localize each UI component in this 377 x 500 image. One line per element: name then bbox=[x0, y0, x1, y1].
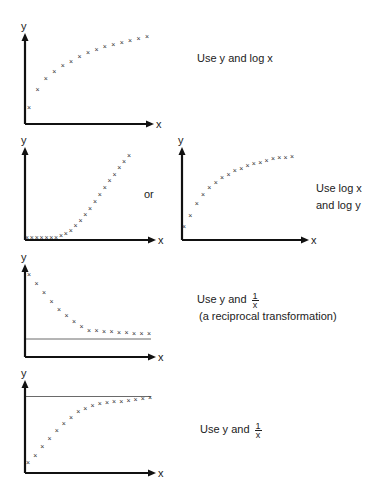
data-point-marker: × bbox=[40, 443, 44, 450]
plot-decreasing-asymptote: yx××××××××××××××××× bbox=[0, 250, 190, 370]
data-point-marker: × bbox=[27, 271, 31, 278]
data-point-marker: × bbox=[93, 198, 97, 205]
data-point-marker: × bbox=[79, 323, 83, 330]
data-point-marker: × bbox=[147, 330, 151, 337]
data-point-marker: × bbox=[98, 400, 102, 407]
data-point-marker: × bbox=[94, 46, 98, 53]
x-axis-arrow-icon bbox=[148, 354, 156, 361]
data-point-marker: × bbox=[220, 174, 224, 181]
data-point-marker: × bbox=[78, 53, 82, 60]
data-point-marker: × bbox=[124, 329, 128, 336]
x-axis-label: x bbox=[156, 118, 162, 130]
data-point-marker: × bbox=[30, 234, 34, 241]
data-point-marker: × bbox=[49, 298, 53, 305]
data-point-marker: × bbox=[86, 49, 90, 56]
x-axis-label: x bbox=[311, 234, 317, 246]
data-point-marker: × bbox=[98, 191, 102, 198]
data-point-marker: × bbox=[182, 223, 186, 230]
data-point-marker: × bbox=[271, 155, 275, 162]
data-point-marker: × bbox=[226, 171, 230, 178]
x-axis-label: x bbox=[158, 234, 164, 246]
data-point-marker: × bbox=[52, 68, 56, 75]
data-point-marker: × bbox=[145, 33, 149, 40]
data-point-marker: × bbox=[105, 399, 109, 406]
data-point-marker: × bbox=[127, 152, 131, 159]
data-point-marker: × bbox=[59, 232, 63, 239]
data-point-marker: × bbox=[120, 39, 124, 46]
data-point-marker: × bbox=[88, 205, 92, 212]
recommendation-y-log-x: Use y and log x bbox=[197, 52, 273, 65]
data-point-marker: × bbox=[265, 157, 269, 164]
data-point-marker: × bbox=[69, 227, 73, 234]
data-point-marker: × bbox=[44, 75, 48, 82]
recommendation-prefix: Use y and bbox=[200, 423, 253, 435]
data-point-marker: × bbox=[233, 167, 237, 174]
x-axis-arrow-icon bbox=[148, 470, 156, 477]
data-point-marker: × bbox=[128, 37, 132, 44]
data-point-marker: × bbox=[258, 159, 262, 166]
data-point-marker: × bbox=[148, 394, 152, 401]
data-point-marker: × bbox=[91, 402, 95, 409]
data-point-marker: × bbox=[64, 312, 68, 319]
data-point-marker: × bbox=[207, 184, 211, 191]
data-point-marker: × bbox=[108, 177, 112, 184]
data-point-marker: × bbox=[134, 396, 138, 403]
recommendation-prefix: Use y and bbox=[197, 293, 250, 305]
data-point-marker: × bbox=[117, 164, 121, 171]
data-point-marker: × bbox=[74, 222, 78, 229]
data-point-marker: × bbox=[49, 234, 53, 241]
data-point-marker: × bbox=[25, 234, 29, 241]
x-axis-arrow-icon bbox=[146, 121, 154, 128]
data-point-marker: × bbox=[195, 200, 199, 207]
data-point-marker: × bbox=[83, 405, 87, 412]
data-point-marker: × bbox=[111, 41, 115, 48]
data-point-marker: × bbox=[201, 191, 205, 198]
x-axis-label: x bbox=[158, 467, 164, 479]
plot-concave-increasing: yx××××××××××××××× bbox=[0, 0, 190, 130]
data-point-marker: × bbox=[117, 329, 121, 336]
data-point-marker: × bbox=[76, 408, 80, 415]
x-axis-arrow-icon bbox=[301, 237, 309, 244]
data-point-marker: × bbox=[54, 234, 58, 241]
data-point-marker: × bbox=[252, 160, 256, 167]
data-point-marker: × bbox=[141, 395, 145, 402]
data-point-marker: × bbox=[62, 420, 66, 427]
reciprocal-note: (a reciprocal transformation) bbox=[199, 310, 337, 323]
data-point-marker: × bbox=[132, 330, 136, 337]
data-point-marker: × bbox=[214, 179, 218, 186]
data-point-marker: × bbox=[284, 154, 288, 161]
fraction-one-over-x: 1x bbox=[252, 292, 259, 309]
data-point-marker: × bbox=[55, 427, 59, 434]
data-point-marker: × bbox=[64, 230, 68, 237]
y-axis-label: y bbox=[21, 134, 27, 146]
data-point-marker: × bbox=[139, 330, 143, 337]
data-point-marker: × bbox=[44, 234, 48, 241]
data-point-marker: × bbox=[61, 62, 65, 69]
data-point-marker: × bbox=[42, 289, 46, 296]
or-label: or bbox=[144, 188, 154, 201]
data-point-marker: × bbox=[83, 211, 87, 218]
data-point-marker: × bbox=[112, 171, 116, 178]
plot-increasing-asymptote: yx×××××××××××××××××× bbox=[0, 370, 190, 500]
data-point-marker: × bbox=[277, 154, 281, 161]
data-point-marker: × bbox=[35, 86, 39, 93]
y-axis-label: y bbox=[21, 367, 27, 379]
recommendation-y-reciprocal-x: Use y and 1x bbox=[200, 422, 262, 439]
data-point-marker: × bbox=[78, 217, 82, 224]
recommendation-log-x-log-y: Use log x and log y bbox=[316, 180, 362, 214]
data-point-marker: × bbox=[188, 212, 192, 219]
fraction-one-over-x: 1x bbox=[255, 422, 262, 439]
y-axis-arrow-icon bbox=[179, 147, 186, 155]
data-point-marker: × bbox=[40, 234, 44, 241]
y-axis-label: y bbox=[178, 134, 184, 146]
data-point-marker: × bbox=[109, 328, 113, 335]
data-point-marker: × bbox=[69, 58, 73, 65]
plot-concave-increasing-steep: yx×××××××××××××××××× bbox=[168, 130, 328, 250]
data-point-marker: × bbox=[119, 398, 123, 405]
data-point-marker: × bbox=[69, 414, 73, 421]
data-point-marker: × bbox=[290, 153, 294, 160]
x-axis-arrow-icon bbox=[148, 237, 156, 244]
y-axis-arrow-icon bbox=[22, 147, 29, 155]
y-axis-arrow-icon bbox=[22, 380, 29, 388]
x-axis-label: x bbox=[158, 351, 164, 363]
